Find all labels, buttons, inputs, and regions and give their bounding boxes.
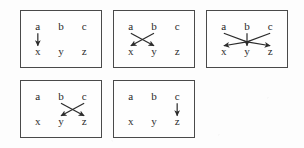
node-label-top-b: b [151,90,157,102]
node-label-bottom-x: x [128,115,134,127]
node-label-top-a: a [35,90,40,102]
node-label-bottom-y: y [58,45,64,57]
node-label-bottom-z: z [175,115,180,127]
node-label-bottom-z: z [82,45,87,57]
mapping-panel: abcxyz [20,80,102,138]
node-label-top-c: c [175,90,180,102]
node-label-bottom-y: y [151,115,157,127]
node-label-top-c: c [175,20,180,32]
node-label-bottom-z: z [82,115,87,127]
node-label-top-a: a [221,20,226,32]
mapping-panel: abcxyz [20,10,102,68]
node-label-bottom-z: z [175,45,180,57]
node-label-bottom-y: y [151,45,157,57]
node-label-top-b: b [151,20,157,32]
node-label-top-a: a [128,20,133,32]
mapping-panel: abcxyz [113,80,195,138]
node-label-top-c: c [82,20,87,32]
node-label-top-b: b [58,20,64,32]
node-label-top-a: a [35,20,40,32]
node-label-top-c: c [82,90,87,102]
node-label-bottom-y: y [58,115,64,127]
node-label-bottom-y: y [244,45,250,57]
mapping-panel: abcxyz [206,10,288,68]
node-label-bottom-x: x [35,115,41,127]
mapping-panel: abcxyz [113,10,195,68]
node-label-bottom-x: x [221,45,227,57]
node-label-bottom-x: x [128,45,134,57]
node-label-top-b: b [58,90,64,102]
node-label-top-b: b [244,20,250,32]
node-label-top-a: a [128,90,133,102]
figure-canvas: abcxyzabcxyzabcxyzabcxyzabcxyz [0,0,304,148]
node-label-bottom-z: z [268,45,273,57]
node-label-bottom-x: x [35,45,41,57]
node-label-top-c: c [268,20,273,32]
